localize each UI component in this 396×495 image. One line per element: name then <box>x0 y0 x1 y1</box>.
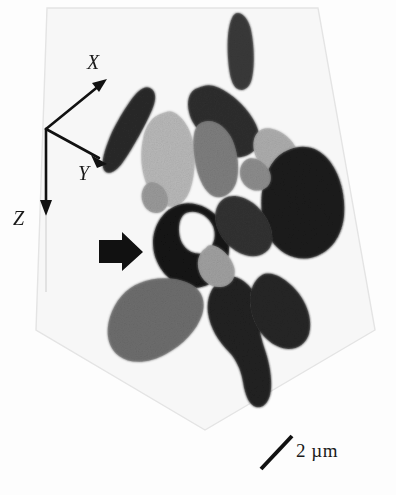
axis-label-x: X <box>87 52 99 72</box>
axis-label-y: Y <box>78 163 89 183</box>
particle-scene <box>0 0 396 495</box>
scale-bar-label: 2 µm <box>296 440 338 462</box>
tomographic-figure: X Y Z 2 µm <box>0 0 396 495</box>
axis-label-z: Z <box>13 208 24 228</box>
scale-bar <box>261 436 292 469</box>
